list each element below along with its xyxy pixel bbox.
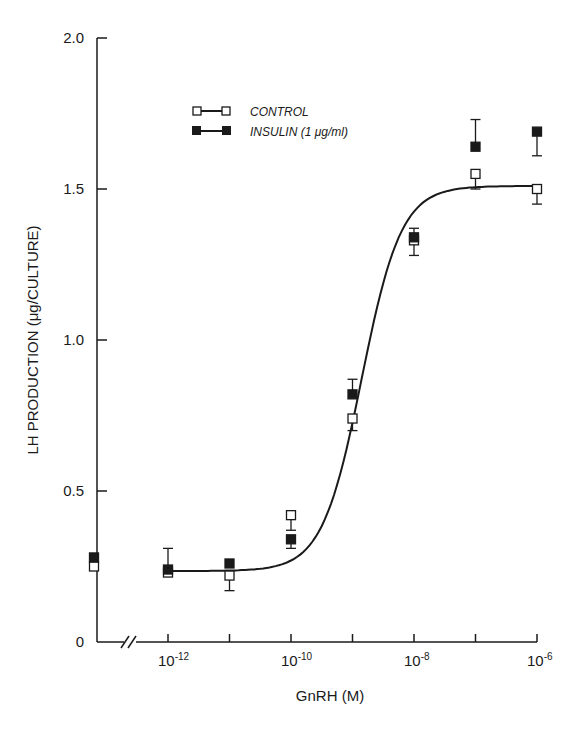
axis-break-mark <box>128 636 136 648</box>
x-tick-label: 10-6 <box>527 651 553 669</box>
control-data-point <box>348 414 357 423</box>
insulin-data-point <box>90 553 99 562</box>
control-data-point <box>533 185 542 194</box>
y-tick-label: 1.0 <box>63 331 84 348</box>
legend-filled-square-icon <box>222 126 231 135</box>
x-axis-ticks: 10-1210-1010-810-6 <box>158 634 553 669</box>
y-tick-label: 0.5 <box>63 482 84 499</box>
y-tick-label: 1.5 <box>63 180 84 197</box>
control-data-point <box>90 562 99 571</box>
control-data-point <box>287 511 296 520</box>
y-axis-ticks: 00.51.01.52.0 <box>63 29 107 650</box>
legend-filled-square-icon <box>192 126 201 135</box>
insulin-data-point <box>471 142 480 151</box>
x-tick-label: 10-8 <box>404 651 430 669</box>
insulin-data-point <box>225 559 234 568</box>
insulin-data-point <box>287 535 296 544</box>
x-tick-label: 10-12 <box>158 651 190 669</box>
insulin-data-point <box>164 565 173 574</box>
y-tick-label: 2.0 <box>63 29 84 46</box>
legend-control-label: CONTROL <box>250 105 309 119</box>
x-axis-title: GnRH (M) <box>296 687 364 704</box>
insulin-data-point <box>348 390 357 399</box>
insulin-data-point <box>533 127 542 136</box>
dose-response-chart: 00.51.01.52.0 10-1210-1010-810-6 CONTROL… <box>0 0 578 731</box>
y-tick-label: 0 <box>76 633 84 650</box>
legend: CONTROL INSULIN (1 μg/ml) <box>192 105 348 139</box>
control-data-point <box>225 571 234 580</box>
legend-open-square-icon <box>222 107 230 115</box>
x-tick-label: 10-10 <box>281 651 313 669</box>
legend-open-square-icon <box>193 107 201 115</box>
control-data-point <box>471 169 480 178</box>
y-axis-title: LH PRODUCTION (μg/CULTURE) <box>24 225 41 454</box>
fit-curve <box>168 186 534 571</box>
insulin-data-point <box>410 233 419 242</box>
legend-insulin-label: INSULIN (1 μg/ml) <box>250 125 348 139</box>
data-points <box>90 120 543 591</box>
